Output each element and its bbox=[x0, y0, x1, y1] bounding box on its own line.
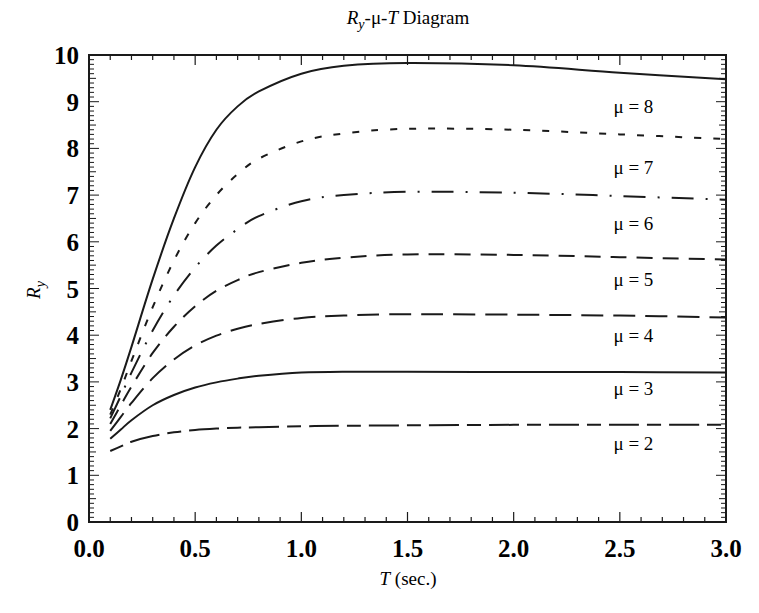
series-label: μ = 4 bbox=[613, 325, 653, 346]
y-tick-label: 1 bbox=[67, 462, 80, 489]
y-tick-label: 5 bbox=[67, 276, 80, 303]
series-label: μ = 2 bbox=[613, 433, 653, 454]
series-label: μ = 3 bbox=[613, 378, 653, 399]
y-axis-label: Ry bbox=[23, 280, 48, 300]
y-tick-label: 3 bbox=[67, 369, 80, 396]
series-labels: μ = 2μ = 3μ = 4μ = 5μ = 6μ = 7μ = 8 bbox=[613, 96, 653, 453]
y-tick-label: 4 bbox=[67, 322, 80, 349]
ry-mu-t-chart: Ry-μ-T Diagram 0.00.51.01.52.02.53.0 012… bbox=[0, 0, 759, 613]
x-tick-label: 2.5 bbox=[604, 535, 635, 562]
y-tick-label: 10 bbox=[54, 42, 79, 69]
x-tick-label: 2.0 bbox=[498, 535, 529, 562]
x-tick-label: 3.0 bbox=[710, 535, 741, 562]
y-tick-label: 0 bbox=[67, 509, 80, 536]
x-tick-label: 1.0 bbox=[286, 535, 317, 562]
series-label: μ = 8 bbox=[613, 96, 653, 117]
y-tick-label: 8 bbox=[67, 135, 80, 162]
x-axis-label: T (sec.) bbox=[380, 568, 437, 590]
x-tick-label: 0.0 bbox=[73, 535, 104, 562]
series-label: μ = 5 bbox=[613, 269, 653, 290]
y-tick-label: 6 bbox=[67, 229, 80, 256]
y-tick-label: 7 bbox=[67, 182, 80, 209]
series-label: μ = 6 bbox=[613, 213, 653, 234]
x-tick-labels: 0.00.51.01.52.02.53.0 bbox=[73, 535, 741, 562]
x-tick-label: 0.5 bbox=[180, 535, 211, 562]
chart-title: Ry-μ-T Diagram bbox=[346, 7, 470, 32]
y-tick-label: 9 bbox=[67, 89, 80, 116]
y-tick-label: 2 bbox=[67, 416, 80, 443]
x-tick-label: 1.5 bbox=[392, 535, 423, 562]
series-label: μ = 7 bbox=[613, 157, 653, 178]
y-tick-labels: 012345678910 bbox=[54, 42, 80, 536]
